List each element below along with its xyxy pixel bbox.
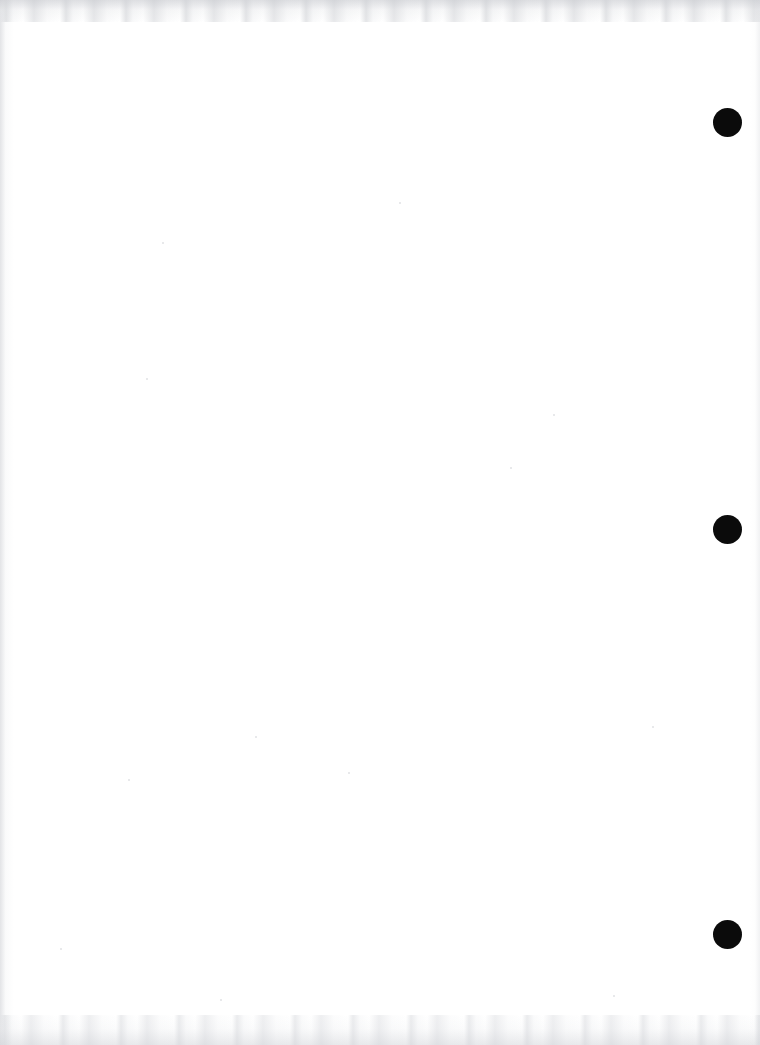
- punch-mark-bottom: [713, 920, 742, 949]
- page-body-blank-area: [0, 0, 760, 1045]
- scanned-page: [0, 0, 760, 1045]
- punch-mark-middle: [713, 515, 742, 544]
- punch-mark-top: [713, 108, 742, 137]
